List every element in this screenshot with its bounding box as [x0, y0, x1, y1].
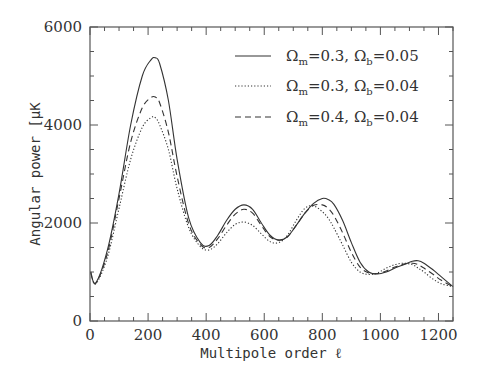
x-tick-label: 400 [192, 326, 221, 344]
legend-entry: Ωm=0.3, Ωb=0.05 [286, 47, 419, 67]
x-tick-label: 1200 [419, 326, 457, 344]
cmb-power-spectrum-chart: 020040060080010001200 0200040006000 Mult… [0, 0, 477, 380]
x-tick-label: 200 [134, 326, 163, 344]
legend-entry: Ωm=0.3, Ωb=0.04 [286, 77, 419, 97]
y-tick-label: 6000 [44, 18, 82, 36]
x-tick-labels: 020040060080010001200 [85, 326, 457, 344]
x-axis-label: Multipole order ℓ [200, 345, 342, 361]
y-tick-labels: 0200040006000 [44, 18, 82, 330]
legend-entry: Ωm=0.4, Ωb=0.04 [286, 108, 419, 128]
y-tick-label: 4000 [44, 116, 82, 134]
x-tick-label: 800 [308, 326, 337, 344]
series-line-dotted [91, 117, 453, 287]
x-tick-label: 1000 [361, 326, 399, 344]
legend: Ωm=0.3, Ωb=0.05Ωm=0.3, Ωb=0.04Ωm=0.4, Ωb… [235, 47, 419, 128]
y-axis-label: Angular power [μK [27, 102, 43, 246]
x-tick-label: 600 [250, 326, 279, 344]
y-tick-label: 0 [72, 312, 82, 330]
x-tick-label: 0 [85, 326, 95, 344]
y-tick-label: 2000 [44, 214, 82, 232]
